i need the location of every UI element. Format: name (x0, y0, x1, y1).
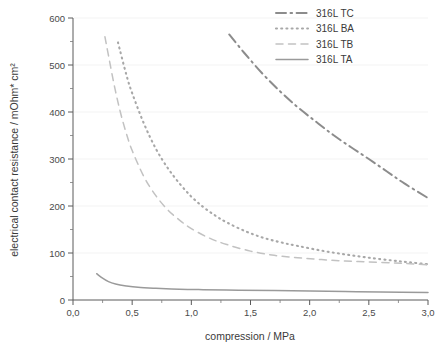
legend-label-2: 316L TB (316, 39, 354, 50)
y-axis-title: electrical contact resistance / mOhm* cm… (8, 63, 20, 257)
y-axis: 0100200300400500600 (49, 13, 73, 306)
x-tick-label: 0,5 (126, 307, 139, 318)
plot-series (97, 34, 428, 292)
x-tick-label: 2,5 (362, 307, 375, 318)
series-line-1 (118, 42, 428, 264)
y-tick-label: 500 (49, 60, 65, 71)
y-tick-label: 100 (49, 248, 65, 259)
x-tick-label: 1,5 (244, 307, 257, 318)
y-tick-label: 0 (60, 295, 65, 306)
y-tick-label: 600 (49, 13, 65, 24)
y-tick-label: 200 (49, 201, 65, 212)
legend: 316L TC316L BA316L TB316L TA (276, 8, 354, 66)
legend-label-3: 316L TA (316, 54, 353, 65)
legend-label-1: 316L BA (316, 23, 354, 34)
legend-label-0: 316L TC (316, 8, 354, 19)
y-tick-label: 300 (49, 154, 65, 165)
x-tick-label: 3,0 (421, 307, 434, 318)
x-axis: 0,00,51,01,52,02,53,0 (66, 300, 434, 318)
x-tick-label: 0,0 (66, 307, 79, 318)
y-tick-label: 400 (49, 107, 65, 118)
contact-resistance-chart: 0100200300400500600 0,00,51,01,52,02,53,… (0, 0, 443, 348)
x-axis-title: compression / MPa (205, 330, 295, 342)
chart-container: 0100200300400500600 0,00,51,01,52,02,53,… (0, 0, 443, 348)
x-tick-label: 1,0 (185, 307, 198, 318)
x-tick-label: 2,0 (303, 307, 316, 318)
series-line-3 (97, 274, 428, 293)
series-line-2 (105, 37, 428, 265)
